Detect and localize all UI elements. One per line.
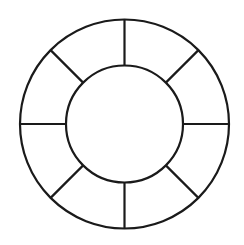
segment-divider-1: [166, 165, 199, 198]
segment-divider-7: [166, 50, 199, 83]
inner-circle: [66, 66, 183, 183]
segment-divider-5: [51, 50, 84, 83]
segment-divider-3: [51, 165, 84, 198]
segmented-ring: [0, 0, 244, 245]
diagram-canvas: [0, 0, 244, 245]
segment-dividers: [20, 20, 229, 229]
